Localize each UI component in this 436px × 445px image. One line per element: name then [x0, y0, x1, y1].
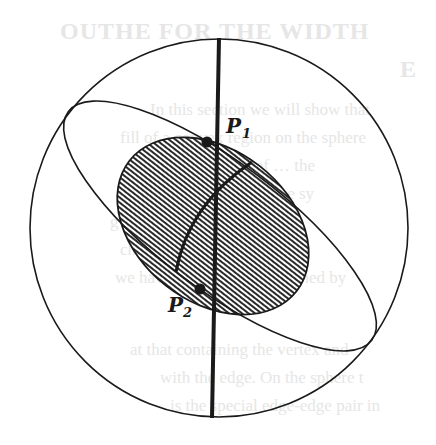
point-p1	[202, 137, 213, 148]
point-p2	[195, 284, 206, 295]
sphere-diagram: P1 P2	[0, 0, 436, 445]
label-p1: P1	[225, 114, 251, 141]
